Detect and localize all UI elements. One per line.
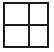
grid-pane-top-right[interactable] <box>30 4 47 24</box>
grid-pane-top-left[interactable] <box>5 4 28 24</box>
icon-canvas <box>0 0 54 52</box>
grid-2x2-icon[interactable] <box>3 2 49 48</box>
grid-pane-bottom-left[interactable] <box>5 26 28 46</box>
grid-pane-bottom-right[interactable] <box>30 26 47 46</box>
